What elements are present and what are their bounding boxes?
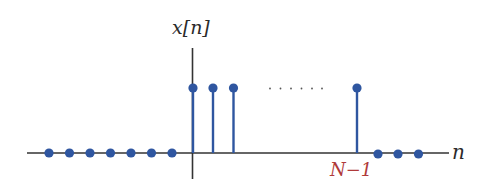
n-minus-one-label: N−1 [330,159,372,180]
y-axis-label: x[n] [172,16,210,38]
ellipsis-dots [269,88,323,90]
right-zero-samples [373,149,423,158]
x-axis-label: n [452,140,465,164]
stem-plot [0,0,495,195]
unit-stems [188,83,361,153]
